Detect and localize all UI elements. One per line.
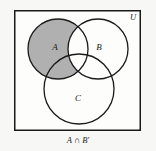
figure-caption: A ∩ B′ xyxy=(66,135,90,145)
venn-diagram-canvas: A B C U A ∩ B′ xyxy=(0,0,156,151)
venn-diagram-figure: A B C U A ∩ B′ xyxy=(0,0,156,151)
universal-set-label: U xyxy=(130,12,137,22)
set-label-b: B xyxy=(96,42,102,52)
shaded-region-a-intersect-b-complement xyxy=(0,0,156,151)
set-label-a: A xyxy=(51,42,58,52)
set-label-c: C xyxy=(75,93,82,103)
